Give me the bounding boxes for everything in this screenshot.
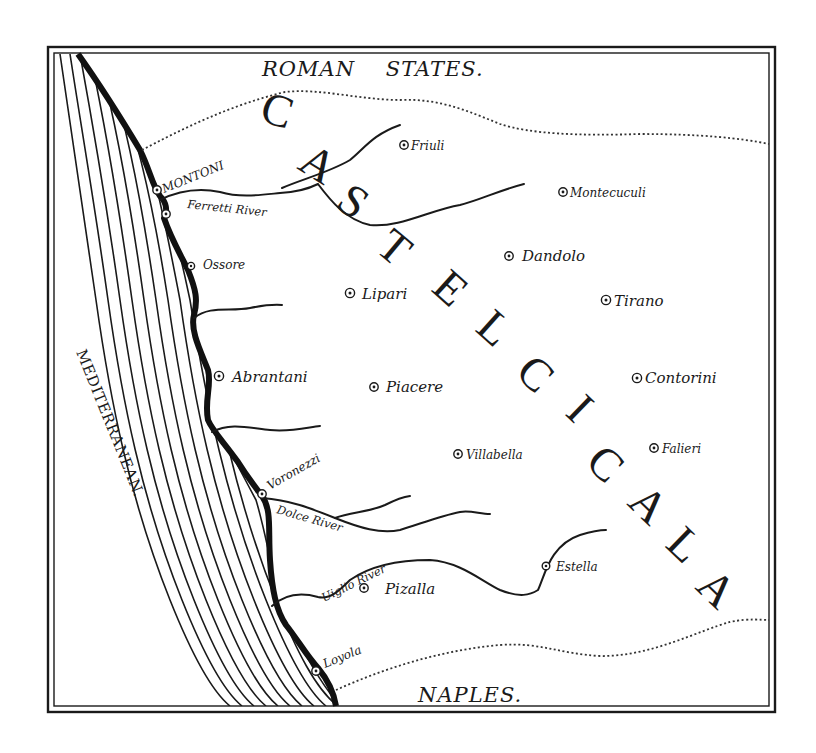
country-letter: A [619,475,678,535]
country-letter: L [657,517,713,573]
town-label: Pizalla [384,580,435,598]
northern-tributary [194,305,282,318]
country-letter: S [328,173,379,229]
country-letter: L [467,300,522,357]
town-loyola[interactable]: Loyola [312,643,364,675]
town-label: Loyola [320,643,363,671]
town-label: Piacere [385,378,443,396]
country-name-castelcicala: C A S T E L C I C A L A [255,81,746,618]
town-dandolo[interactable]: Dandolo [505,247,585,265]
town-label: Friuli [410,139,444,153]
map: ROMAN STATES. NAPLES. MEDITERRANEAN. C A… [0,0,816,753]
country-letter: T [368,219,422,276]
town-friuli[interactable]: Friuli [400,139,445,153]
town-label: Voronezzi [265,451,323,493]
uiglio-river-label: Uiglio River [319,561,389,605]
town-label: Contorini [645,369,717,387]
town-pizalla[interactable]: Pizalla [360,580,435,598]
town-label: Abrantani [230,368,308,386]
mediterranean-label: MEDITERRANEAN. [72,347,148,500]
town-voronezzi[interactable]: Voronezzi [258,451,323,498]
town-montecuculi[interactable]: Montecuculi [559,186,646,200]
towns: Friuli MONTONI Montecuculi Ossore Dandol… [153,139,717,675]
town-label: Falieri [661,442,701,456]
country-letter: E [423,260,478,317]
northern-border [142,91,769,150]
town-ferretti-mouth[interactable] [162,210,170,218]
country-letter: C [255,81,300,139]
southern-border [336,620,769,691]
town-abrantani[interactable]: Abrantani [214,368,307,386]
town-label: Villabella [466,448,523,462]
country-letter: A [687,559,746,619]
ferretti-river-label: Ferretti River [186,197,269,220]
town-piacere[interactable]: Piacere [370,378,443,396]
roman-states-label: ROMAN STATES. [261,57,484,81]
town-label: Lipari [361,285,407,303]
town-label: Ossore [203,258,245,272]
central-tributary [212,426,320,432]
town-villabella[interactable]: Villabella [454,448,523,462]
town-label: Tirano [614,292,664,310]
country-letter: A [291,133,346,194]
town-label: Estella [555,560,598,574]
naples-label: NAPLES. [417,683,522,707]
town-tirano[interactable]: Tirano [601,292,663,310]
town-label: Montecuculi [569,186,646,200]
country-letter: C [577,435,635,493]
town-falieri[interactable]: Falieri [650,442,701,456]
dolce-river-branch [335,496,410,518]
town-contorini[interactable]: Contorini [632,369,716,387]
country-letter: I [557,385,603,432]
dolce-river-label: Dolce River [274,502,345,535]
town-lipari[interactable]: Lipari [345,285,407,303]
country-letter: C [507,345,565,403]
town-ossore[interactable]: Ossore [187,258,245,272]
town-label: Dandolo [521,247,585,265]
borders [142,91,769,690]
